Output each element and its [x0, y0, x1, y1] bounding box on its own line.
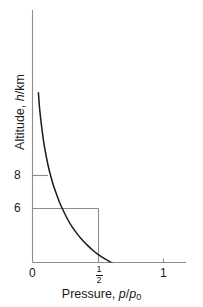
- x-axis-title-text: Pressure,: [62, 287, 119, 301]
- y-axis-title: Altitude, h/km: [13, 37, 27, 187]
- fraction-numerator: 1: [92, 265, 106, 274]
- xtick-label-one-half: 1 2: [92, 265, 106, 286]
- y-axis-title-units: /km: [13, 74, 27, 94]
- xtick-label-0: 0: [29, 267, 36, 279]
- xtick-label-1: 1: [160, 267, 167, 279]
- y-axis-title-variable-h: h: [13, 94, 27, 101]
- chart-figure: 8 6 0 1 2 1 Pressure, p/p0 Altitude, h/k…: [0, 0, 203, 307]
- y-axis-title-text: Altitude,: [13, 101, 27, 150]
- plot-area: [0, 0, 203, 307]
- x-axis-title: Pressure, p/p0: [0, 287, 203, 302]
- ytick-label-6: 6: [14, 202, 21, 214]
- x-axis-title-subscript: 0: [136, 292, 141, 302]
- barometric-decay-curve: [38, 93, 163, 279]
- fraction-denominator: 2: [92, 276, 106, 285]
- x-axis-title-variable-p: p: [119, 287, 126, 301]
